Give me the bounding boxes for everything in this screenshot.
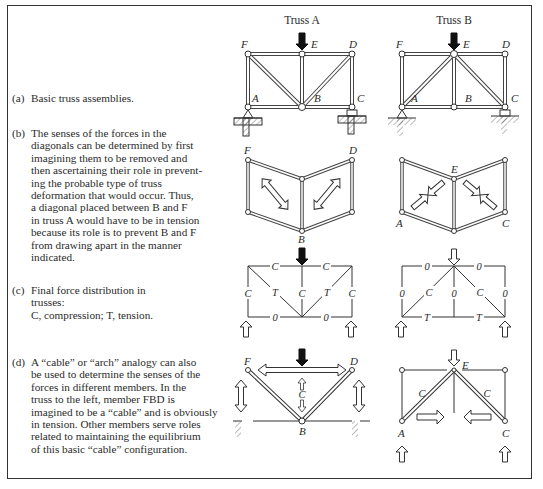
node-label-d: D bbox=[348, 38, 357, 50]
converging-arrows-icon bbox=[409, 178, 447, 213]
svg-text:0: 0 bbox=[476, 261, 482, 272]
svg-text:C: C bbox=[348, 288, 356, 299]
svg-text:C: C bbox=[271, 261, 279, 272]
converging-arrows-icon bbox=[461, 178, 499, 213]
node-label-a: A bbox=[395, 217, 403, 229]
truss-b-basic bbox=[388, 33, 519, 136]
double-arrow-icon bbox=[353, 380, 365, 412]
node-label-b: B bbox=[298, 233, 305, 245]
member-label-c: C bbox=[298, 389, 306, 400]
node-label-d: D bbox=[501, 38, 510, 50]
node-label-c: C bbox=[357, 92, 365, 104]
node-label-b: B bbox=[299, 425, 306, 437]
node-label-a: A bbox=[397, 427, 405, 439]
node-label-f: F bbox=[243, 144, 251, 156]
node-label-f: F bbox=[395, 38, 403, 50]
truss-diagrams: Truss A Truss B F E D A B C bbox=[0, 0, 543, 489]
svg-text:0: 0 bbox=[399, 288, 405, 299]
node-label-f: F bbox=[240, 38, 248, 50]
node-label-f: F bbox=[243, 355, 251, 367]
member-label-c: C bbox=[418, 388, 426, 399]
truss-b-arch-analogy bbox=[396, 350, 511, 462]
double-arrow-icon bbox=[235, 380, 247, 412]
node-label-c: C bbox=[502, 217, 510, 229]
svg-text:0: 0 bbox=[451, 288, 457, 299]
svg-text:C: C bbox=[322, 261, 330, 272]
arrow-left-icon bbox=[464, 410, 491, 424]
svg-text:C: C bbox=[476, 287, 484, 298]
truss-b-title: Truss B bbox=[436, 14, 472, 26]
node-label-e: E bbox=[461, 359, 469, 371]
double-arrow-icon bbox=[310, 175, 345, 213]
svg-text:0: 0 bbox=[272, 312, 278, 323]
svg-text:0: 0 bbox=[323, 312, 329, 323]
node-label-c: C bbox=[511, 92, 519, 104]
svg-text:C: C bbox=[298, 288, 306, 299]
svg-text:0: 0 bbox=[424, 261, 430, 272]
arrow-right-icon bbox=[417, 410, 444, 424]
member-label-c: C bbox=[483, 388, 491, 399]
svg-text:C: C bbox=[425, 287, 433, 298]
svg-text:C: C bbox=[244, 288, 252, 299]
node-label-b: B bbox=[465, 92, 472, 104]
node-label-b: B bbox=[314, 92, 321, 104]
node-label-a: A bbox=[251, 92, 259, 104]
truss-a-deformation bbox=[246, 158, 355, 234]
node-label-d: D bbox=[348, 144, 357, 156]
truss-a-title: Truss A bbox=[284, 14, 320, 26]
truss-a-force-labels: C C C C C T T 0 0 bbox=[243, 260, 357, 323]
node-label-e: E bbox=[310, 38, 318, 50]
double-arrow-icon bbox=[258, 175, 293, 213]
node-label-e: E bbox=[450, 163, 458, 175]
svg-text:0: 0 bbox=[502, 288, 508, 299]
truss-a-basic bbox=[234, 33, 366, 136]
node-label-e: E bbox=[462, 38, 470, 50]
node-label-d: D bbox=[349, 355, 358, 367]
node-label-c: C bbox=[502, 427, 510, 439]
node-label-a: A bbox=[410, 92, 418, 104]
